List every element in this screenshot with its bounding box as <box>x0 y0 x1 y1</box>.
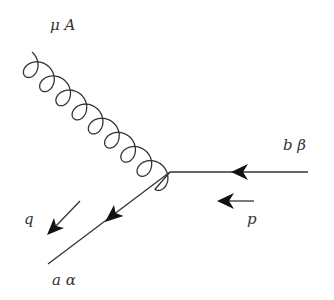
incoming-quark-label: b β <box>283 138 306 153</box>
momentum-arrow-q <box>47 201 80 235</box>
momentum-p-label: p <box>247 212 257 227</box>
incoming-fermion-line <box>170 164 308 180</box>
gluon-label: μ A <box>50 18 75 33</box>
feynman-diagram: μ A b β a α p q <box>0 0 334 300</box>
outgoing-quark-label: a α <box>52 273 76 288</box>
gluon-line <box>23 52 170 190</box>
fermion-arrow-icon <box>105 205 124 222</box>
momentum-arrow-p <box>217 193 254 209</box>
outgoing-fermion-line <box>48 172 170 264</box>
momentum-q-label: q <box>24 212 34 227</box>
